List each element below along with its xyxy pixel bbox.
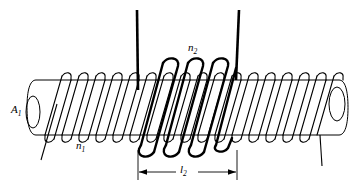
dimension-arrowhead-right — [228, 169, 236, 175]
label-cross-sectional-area: A1 — [11, 104, 21, 118]
dimension-arrowhead-left — [139, 169, 147, 175]
primary-lead-right — [320, 135, 322, 166]
solenoid-diagram-svg — [0, 0, 357, 187]
label-secondary-turns: n2 — [188, 42, 197, 56]
cylinder-left-bore-ellipse — [26, 96, 40, 128]
primary-winding-left — [45, 73, 156, 142]
primary-lead-left — [41, 104, 57, 160]
secondary-lead-left — [137, 10, 138, 90]
label-secondary-length: l2 — [180, 164, 187, 178]
primary-winding-right — [232, 73, 343, 142]
cylinder-left-cap-outer — [27, 80, 36, 135]
cylinder-right-end-ellipse — [329, 87, 345, 121]
label-primary-turns: n1 — [76, 140, 85, 154]
solenoid-figure: A1 n1 n2 l2 — [0, 0, 357, 187]
secondary-lead-right — [236, 10, 239, 80]
